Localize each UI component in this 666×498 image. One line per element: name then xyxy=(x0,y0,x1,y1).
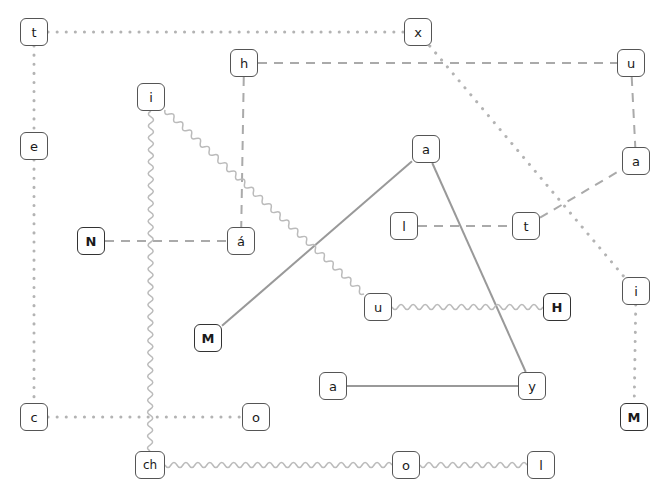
diagram-canvas: txhuieaaltNáiuHMaycoMchol xyxy=(0,0,666,498)
graph-node-n3[interactable]: u xyxy=(617,49,645,77)
graph-node-label: t xyxy=(523,220,528,233)
graph-node-n15[interactable]: M xyxy=(194,324,222,352)
graph-node-n20[interactable]: M xyxy=(620,403,648,431)
graph-node-n23[interactable]: l xyxy=(527,451,555,479)
graph-node-label: l xyxy=(402,220,406,233)
graph-node-n12[interactable]: i xyxy=(622,277,650,305)
edge-n1-n12-dotted xyxy=(430,46,624,277)
graph-node-n1[interactable]: x xyxy=(404,18,432,46)
graph-node-n7[interactable]: a xyxy=(622,147,650,175)
graph-node-label: M xyxy=(628,411,641,424)
graph-node-label: u xyxy=(374,301,382,314)
graph-node-label: ch xyxy=(143,459,157,471)
graph-node-n8[interactable]: l xyxy=(390,212,418,240)
graph-node-label: i xyxy=(149,91,153,104)
graph-node-n5[interactable]: e xyxy=(20,132,48,160)
edge-n4-n21-wavy xyxy=(147,111,153,451)
graph-node-label: u xyxy=(627,57,635,70)
graph-node-label: a xyxy=(329,380,337,393)
edge-n13-n14-wavy xyxy=(392,304,543,309)
graph-node-n10[interactable]: N xyxy=(77,227,105,255)
graph-node-n6[interactable]: a xyxy=(412,135,440,163)
edge-n4-n13-wavy xyxy=(165,110,364,294)
edge-n12-n20-dotted xyxy=(634,305,636,403)
graph-node-n11[interactable]: á xyxy=(227,227,255,255)
graph-node-label: N xyxy=(86,235,97,248)
graph-node-n0[interactable]: t xyxy=(20,18,48,46)
graph-node-label: H xyxy=(552,301,563,314)
graph-node-label: o xyxy=(402,459,410,472)
graph-node-n13[interactable]: u xyxy=(364,293,392,321)
graph-node-label: h xyxy=(240,57,248,70)
graph-node-label: x xyxy=(414,26,422,39)
graph-node-label: a xyxy=(632,155,640,168)
graph-node-label: á xyxy=(237,235,245,248)
graph-node-n2[interactable]: h xyxy=(230,49,258,77)
graph-node-label: i xyxy=(634,285,638,298)
graph-node-n4[interactable]: i xyxy=(137,83,165,111)
edge-n21-n22-wavy xyxy=(165,462,392,467)
graph-node-label: c xyxy=(30,411,37,424)
graph-node-n16[interactable]: a xyxy=(319,372,347,400)
graph-node-n18[interactable]: c xyxy=(20,403,48,431)
graph-node-label: M xyxy=(202,332,215,345)
edge-n2-n11-dashed xyxy=(241,77,244,227)
graph-node-label: o xyxy=(252,411,260,424)
graph-node-label: y xyxy=(528,380,536,393)
edge-n3-n7-dashed xyxy=(632,77,636,147)
graph-node-n17[interactable]: y xyxy=(518,372,546,400)
graph-node-n21[interactable]: ch xyxy=(135,451,165,479)
edge-n6-n17-solid xyxy=(432,163,525,372)
graph-node-label: e xyxy=(30,140,38,153)
graph-node-n14[interactable]: H xyxy=(543,293,571,321)
graph-node-label: a xyxy=(422,143,430,156)
graph-node-label: t xyxy=(31,26,36,39)
graph-node-n19[interactable]: o xyxy=(242,403,270,431)
edge-n22-n23-wavy xyxy=(420,462,527,467)
graph-node-n9[interactable]: t xyxy=(512,212,540,240)
graph-node-label: l xyxy=(539,459,543,472)
graph-node-n22[interactable]: o xyxy=(392,451,420,479)
